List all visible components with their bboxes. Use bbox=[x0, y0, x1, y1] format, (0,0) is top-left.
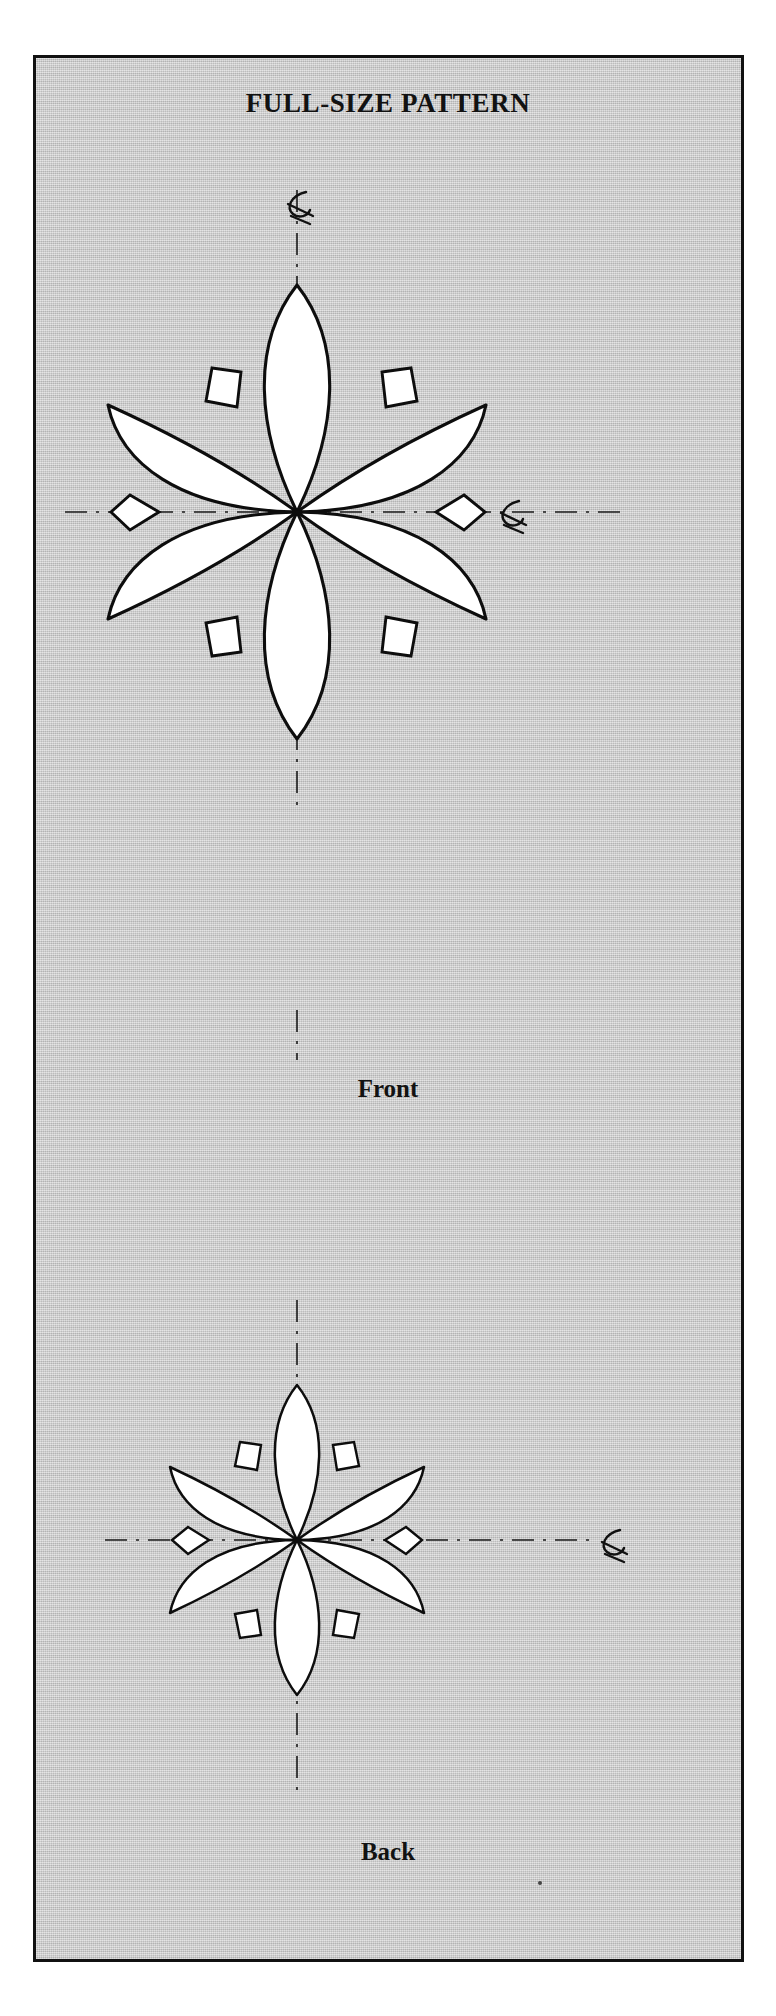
figure-label-front: Front bbox=[0, 1075, 776, 1103]
page-title: FULL-SIZE PATTERN bbox=[0, 88, 776, 119]
pattern-panel bbox=[33, 55, 744, 1962]
pattern-sheet: FULL-SIZE PATTERN Front Back bbox=[0, 0, 776, 2016]
figure-label-back: Back bbox=[0, 1838, 776, 1866]
